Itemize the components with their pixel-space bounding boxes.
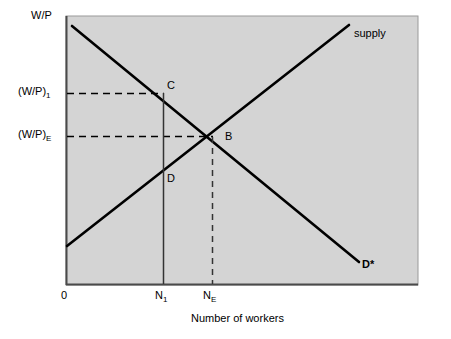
y-tick-wage-1-subscript: 1 bbox=[46, 91, 50, 100]
x-tick-n-1-base: N bbox=[155, 289, 163, 301]
supply-curve-label: supply bbox=[354, 28, 386, 39]
y-tick-wage-e: (W/P)E bbox=[18, 129, 51, 143]
y-axis-label: W/P bbox=[31, 10, 52, 21]
chart-svg bbox=[0, 0, 451, 339]
x-tick-n-1-subscript: 1 bbox=[163, 295, 167, 304]
y-tick-wage-e-subscript: E bbox=[46, 134, 51, 143]
y-tick-wage-1: (W/P)1 bbox=[18, 86, 51, 100]
point-c-label: C bbox=[167, 80, 175, 91]
x-axis-label: Number of workers bbox=[191, 313, 284, 324]
y-tick-wage-e-base: (W/P) bbox=[18, 128, 46, 140]
x-tick-n-e-subscript: E bbox=[211, 295, 216, 304]
point-b-label: B bbox=[225, 131, 232, 142]
x-tick-n-e-base: N bbox=[203, 289, 211, 301]
x-tick-n-e: NE bbox=[203, 290, 216, 304]
plot-background bbox=[66, 16, 418, 285]
origin-label: 0 bbox=[61, 290, 67, 301]
x-tick-n-1: N1 bbox=[155, 290, 167, 304]
point-d-label: D bbox=[167, 173, 175, 184]
demand-curve-label: D* bbox=[362, 259, 374, 270]
labor-market-diagram: W/P (W/P)1 (W/P)E 0 N1 NE Number of work… bbox=[0, 0, 451, 339]
y-tick-wage-1-base: (W/P) bbox=[18, 85, 46, 97]
